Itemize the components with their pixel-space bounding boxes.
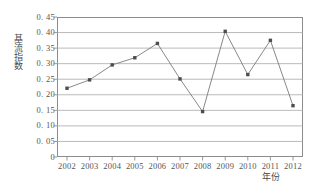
y-axis-tick-label: 0. 30 <box>20 59 55 68</box>
gridlines <box>57 33 303 142</box>
y-axis-tick-label: 0. 20 <box>20 90 55 99</box>
x-axis-title: 年份 <box>262 172 280 183</box>
data-point-marker <box>178 77 181 80</box>
series-markers <box>65 30 294 114</box>
data-point-marker <box>201 110 204 113</box>
data-point-marker <box>88 78 91 81</box>
data-point-marker <box>269 39 272 42</box>
y-axis-tick-label: 0. 45 <box>20 13 55 22</box>
data-point-marker <box>133 56 136 59</box>
series-polyline <box>67 31 293 111</box>
data-point-marker <box>111 63 114 66</box>
data-point-marker <box>156 42 159 45</box>
y-axis-tick-label: 0. 10 <box>20 121 55 130</box>
data-point-marker <box>246 73 249 76</box>
data-point-marker <box>224 30 227 33</box>
y-axis-tick-label: 0. 40 <box>20 28 55 37</box>
plot-area <box>57 17 303 157</box>
data-point-marker <box>65 87 68 90</box>
y-axis-tick-label: 0. 35 <box>20 44 55 53</box>
baseflow-index-line-chart: 基流指数 00. 050. 100. 150. 200. 250. 300. 3… <box>0 0 317 195</box>
series-line <box>67 31 293 111</box>
x-axis-tick-label: 2012 <box>273 161 313 171</box>
y-axis-tick-label: 0. 05 <box>20 137 55 146</box>
data-point-marker <box>291 104 294 107</box>
x-axis-tick-marks <box>67 157 293 161</box>
y-axis-tick-label: 0. 25 <box>20 75 55 84</box>
y-axis-tick-label: 0. 15 <box>20 106 55 115</box>
